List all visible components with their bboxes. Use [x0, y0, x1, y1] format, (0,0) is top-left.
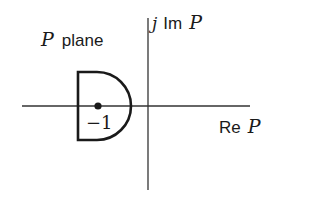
plane-label: P plane: [41, 30, 103, 49]
imag-var: P: [189, 11, 202, 33]
real-axis-label: Re P: [219, 117, 261, 136]
imaginary-axis-label: j Im P: [152, 13, 202, 32]
imag-text: Im: [163, 14, 182, 33]
point-minus-one: [94, 102, 101, 109]
imag-prefix: j: [152, 13, 157, 33]
real-text: Re: [219, 118, 241, 137]
real-var: P: [248, 115, 261, 137]
plane-label-text: plane: [62, 31, 104, 50]
plane-label-var: P: [41, 28, 54, 50]
point-label: −1: [86, 114, 113, 132]
